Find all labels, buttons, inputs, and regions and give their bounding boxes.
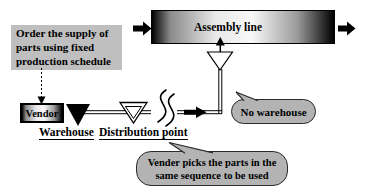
riser-line [219,69,222,114]
vender-picks-line1: Vender picks the parts in the [148,156,277,169]
line-break-squiggle-icon [151,90,177,126]
order-schedule-line2: parts using fixed [16,41,117,55]
flow-arrow-icon [184,107,207,119]
no-warehouse-text: No warehouse [240,106,306,118]
warehouse-label: Warehouse [39,126,94,140]
vendor-box: Vendor [20,103,64,123]
vendor-label: Vendor [26,108,59,119]
order-schedule-box: Order the supply of parts using fixed pr… [11,25,122,70]
supply-line [82,111,222,114]
assembly-line-box: Assembly line [151,10,335,44]
order-schedule-line3: production schedule [16,55,117,69]
distribution-point-marker-icon [120,103,147,124]
distribution-point-label: Distribution point [99,126,188,140]
assembly-outbound-arrow-icon [338,22,356,36]
warehouse-marker-icon [66,104,90,126]
order-schedule-line1: Order the supply of [16,27,117,41]
vender-picks-bubble: Vender picks the parts in the same seque… [136,151,288,186]
funnel-marker-icon [208,52,233,70]
assembly-line-label: Assembly line [194,21,262,33]
assembly-inbound-arrow-icon [133,22,152,36]
vender-picks-line2: same sequence to be used [155,169,268,182]
diagram-canvas: Order the supply of parts using fixed pr… [0,0,370,194]
no-warehouse-bubble: No warehouse [231,99,316,124]
schedule-to-vendor-dashed-arrow-icon [38,68,46,105]
